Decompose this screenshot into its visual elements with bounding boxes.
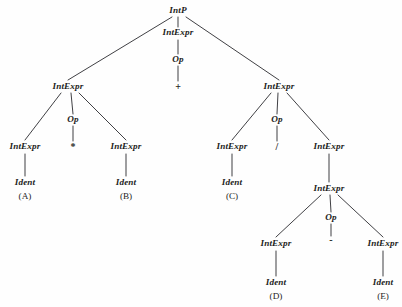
node-left-b-ident: Ident	[116, 178, 137, 188]
node-label: IntP	[169, 5, 186, 15]
node-deep-e-intexpr: IntExpr	[367, 239, 398, 249]
node-label: (C)	[226, 191, 238, 201]
node-deep-d-letter: (D)	[270, 292, 283, 302]
node-left-a-ident: Ident	[15, 178, 36, 188]
node-deep-e-ident: Ident	[373, 278, 394, 288]
node-right-op: Op	[271, 115, 283, 125]
node-right-c-intexpr: IntExpr	[216, 142, 247, 152]
node-label: IntExpr	[263, 81, 294, 91]
node-left-b-letter: (B)	[120, 192, 132, 202]
node-label: IntExpr	[367, 238, 398, 248]
node-label: IntExpr	[110, 141, 141, 151]
node-label: Op	[271, 114, 283, 124]
parse-tree-figure: IntP IntExpr Op + IntExpr Op * IntExpr I…	[0, 0, 402, 307]
node-operator-times: *	[71, 142, 76, 152]
node-operator-minus: -	[329, 235, 332, 245]
tree-edge	[71, 93, 73, 114]
tree-edge	[79, 93, 126, 140]
node-left-a-letter: (A)	[19, 192, 32, 202]
node-label: IntExpr	[162, 27, 193, 37]
node-label: Ident	[15, 177, 36, 187]
node-right-c-ident: Ident	[222, 178, 243, 188]
node-label: (E)	[377, 291, 389, 301]
tree-edge	[68, 17, 172, 80]
node-left-op: Op	[67, 115, 79, 125]
node-top-mid-intexpr: IntExpr	[162, 28, 193, 38]
node-right-c-letter: (C)	[226, 192, 238, 202]
tree-edge	[330, 195, 331, 212]
node-label: IntExpr	[313, 141, 344, 151]
node-label: (A)	[19, 191, 32, 201]
node-right-intexpr: IntExpr	[263, 82, 294, 92]
node-label: (D)	[270, 291, 283, 301]
node-left-b-intexpr: IntExpr	[110, 142, 141, 152]
node-right-sub-intexpr: IntExpr	[313, 142, 344, 152]
node-label: Ident	[222, 177, 243, 187]
node-deep-d-ident: Ident	[266, 278, 287, 288]
node-operator-divide: /	[276, 142, 279, 152]
node-label: IntExpr	[9, 141, 40, 151]
node-label: IntExpr	[260, 238, 291, 248]
node-label: Op	[67, 114, 79, 124]
node-label: IntExpr	[216, 141, 247, 151]
node-label: +	[175, 81, 181, 92]
node-label: Op	[172, 54, 184, 64]
tree-edge	[25, 93, 61, 140]
node-deep-e-letter: (E)	[377, 292, 389, 302]
node-label: Op	[325, 212, 337, 222]
node-root-intp: IntP	[169, 6, 186, 16]
tree-edges-layer	[0, 0, 402, 307]
node-deep-intexpr: IntExpr	[313, 184, 344, 194]
node-operator-plus: +	[175, 82, 181, 92]
tree-edge	[186, 17, 279, 80]
node-label: Ident	[116, 177, 137, 187]
node-deep-d-intexpr: IntExpr	[260, 239, 291, 249]
node-label: -	[329, 234, 332, 245]
node-label: Ident	[373, 277, 394, 287]
tree-edge	[276, 195, 321, 237]
tree-edge	[287, 93, 329, 140]
node-left-a-intexpr: IntExpr	[9, 142, 40, 152]
node-deep-op: Op	[325, 213, 337, 223]
tree-edge	[277, 93, 278, 114]
node-label: *	[71, 141, 76, 152]
node-label: Ident	[266, 277, 287, 287]
tree-edge	[338, 195, 383, 237]
node-top-mid-op: Op	[172, 55, 184, 65]
node-label: /	[276, 141, 279, 152]
node-left-intexpr: IntExpr	[52, 82, 83, 92]
tree-edge	[232, 93, 271, 140]
node-label: IntExpr	[52, 81, 83, 91]
node-label: (B)	[120, 191, 132, 201]
node-label: IntExpr	[313, 183, 344, 193]
